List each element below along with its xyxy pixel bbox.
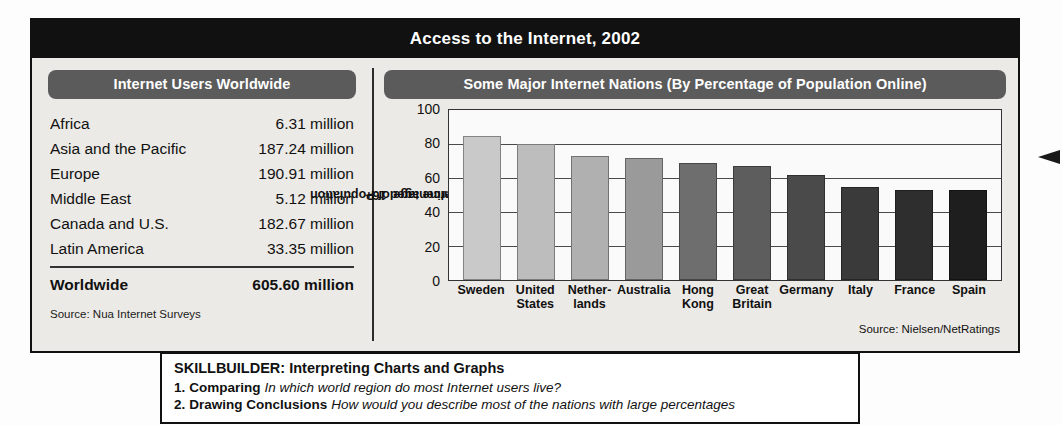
region-label: Middle East — [50, 190, 131, 208]
table-total-divider — [50, 266, 354, 268]
item-number: 2. — [174, 396, 185, 413]
skillbuilder-title: SKILLBUILDER: Interpreting Charts and Gr… — [174, 360, 848, 376]
y-tick-label: 80 — [424, 135, 440, 151]
right-source-note: Source: Nielsen/NetRatings — [859, 323, 1000, 335]
region-value: 190.91 million — [258, 165, 354, 183]
page-background: Access to the Internet, 2002 Internet Us… — [0, 0, 1062, 425]
bar-cell — [563, 110, 617, 280]
left-source-note: Source: Nua Internet Surveys — [48, 308, 356, 320]
bar — [895, 190, 934, 280]
total-value: 605.60 million — [252, 276, 354, 294]
region-label: Canada and U.S. — [50, 215, 169, 233]
region-label: Europe — [50, 165, 100, 183]
bar-cell — [509, 110, 563, 280]
bar-chart: Percentage of Population Online aged 16+… — [384, 109, 1006, 324]
bar — [787, 175, 826, 280]
region-value: 187.24 million — [258, 140, 354, 158]
bar-cell — [617, 110, 671, 280]
bar — [679, 163, 718, 280]
item-question: How would you describe most of the natio… — [331, 396, 735, 413]
x-axis-label: HongKong — [671, 284, 725, 311]
page-title: Access to the Internet, 2002 — [410, 29, 640, 49]
x-axis-label: France — [888, 284, 942, 311]
y-tick-label: 100 — [417, 101, 440, 117]
internet-users-table: Africa 6.31 million Asia and the Pacific… — [48, 111, 356, 298]
item-lead: Comparing — [189, 379, 260, 396]
table-total-row: Worldwide 605.60 million — [48, 271, 356, 298]
x-axis-label: Sweden — [454, 284, 508, 311]
bar — [463, 136, 502, 281]
pointer-arrow-icon — [1038, 150, 1060, 164]
internet-nations-heading: Some Major Internet Nations (By Percenta… — [384, 70, 1006, 99]
bar-cell — [725, 110, 779, 280]
table-row: Latin America 33.35 million — [48, 236, 356, 261]
bar — [517, 144, 556, 280]
region-value: 6.31 million — [276, 115, 354, 133]
internet-users-panel: Internet Users Worldwide Africa 6.31 mil… — [32, 58, 372, 351]
y-axis-title: Percentage of Population Online aged 16+ — [382, 109, 416, 281]
y-tick-label: 0 — [432, 273, 440, 289]
y-tick-label: 40 — [424, 204, 440, 220]
region-label: Latin America — [50, 240, 144, 258]
region-label: Africa — [50, 115, 90, 133]
feature-panels: Internet Users Worldwide Africa 6.31 mil… — [32, 58, 1018, 351]
region-label: Asia and the Pacific — [50, 140, 186, 158]
table-row: Asia and the Pacific 187.24 million — [48, 136, 356, 161]
table-row: Canada and U.S. 182.67 million — [48, 211, 356, 236]
x-axis-label: GreatBritain — [725, 284, 779, 311]
skillbuilder-item: 2. Drawing Conclusions How would you des… — [174, 396, 848, 413]
plot-area — [448, 109, 1002, 281]
x-axis-label: Australia — [617, 284, 671, 311]
total-label: Worldwide — [50, 276, 128, 294]
table-row: Europe 190.91 million — [48, 161, 356, 186]
bar — [571, 156, 610, 280]
item-question: In which world region do most Internet u… — [265, 379, 561, 396]
bar-cell — [941, 110, 995, 280]
item-lead: Drawing Conclusions — [189, 396, 327, 413]
y-tick-label: 20 — [424, 239, 440, 255]
table-row: Africa 6.31 million — [48, 111, 356, 136]
x-axis-labels: SwedenUnitedStatesNether-landsAustraliaH… — [448, 284, 1002, 311]
bar — [733, 166, 772, 280]
x-axis-label: Spain — [942, 284, 996, 311]
bar-cell — [779, 110, 833, 280]
x-axis-label: Nether-lands — [562, 284, 616, 311]
bar — [841, 187, 880, 281]
bar — [625, 158, 664, 280]
bar-cell — [455, 110, 509, 280]
skillbuilder-box: SKILLBUILDER: Interpreting Charts and Gr… — [160, 352, 860, 424]
item-number: 1. — [174, 379, 185, 396]
bar-cell — [671, 110, 725, 280]
internet-users-heading: Internet Users Worldwide — [48, 70, 356, 99]
bar-series — [449, 110, 1001, 280]
feature-box: Access to the Internet, 2002 Internet Us… — [30, 18, 1020, 353]
bar-cell — [833, 110, 887, 280]
bar — [949, 190, 988, 280]
x-axis-label: UnitedStates — [508, 284, 562, 311]
skillbuilder-item: 1. Comparing In which world region do mo… — [174, 379, 848, 396]
bar-cell — [887, 110, 941, 280]
y-axis-ticks: 100 80 60 40 20 0 — [414, 109, 444, 281]
internet-nations-panel: Some Major Internet Nations (By Percenta… — [374, 58, 1018, 351]
x-axis-label: Italy — [833, 284, 887, 311]
feature-title-bar: Access to the Internet, 2002 — [32, 20, 1018, 58]
y-tick-label: 60 — [424, 170, 440, 186]
x-axis-label: Germany — [779, 284, 833, 311]
region-value: 33.35 million — [267, 240, 354, 258]
region-value: 182.67 million — [258, 215, 354, 233]
